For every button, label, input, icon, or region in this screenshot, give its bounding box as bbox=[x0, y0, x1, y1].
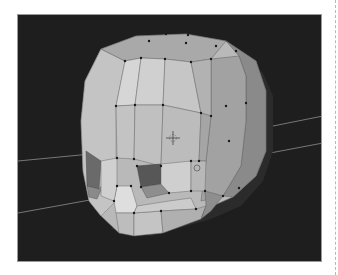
eye-socket-right bbox=[137, 164, 161, 187]
chin-face bbox=[134, 211, 163, 236]
mid-face bbox=[134, 105, 163, 166]
page-margin-rule bbox=[335, 0, 336, 275]
mid-face bbox=[116, 105, 135, 159]
3d-viewport[interactable] bbox=[17, 14, 322, 262]
cheek-face bbox=[101, 158, 117, 201]
eye-socket-inner bbox=[161, 161, 191, 193]
chin-face bbox=[116, 213, 134, 236]
mid-face bbox=[161, 105, 201, 166]
mesh-render bbox=[18, 15, 322, 262]
head-top bbox=[101, 34, 226, 62]
